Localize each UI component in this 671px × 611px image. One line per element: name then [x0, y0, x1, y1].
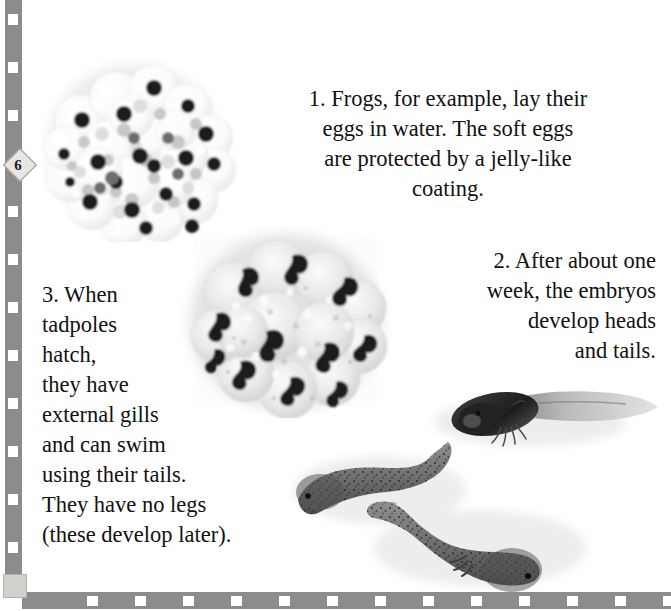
caption-step-3: 3. When tadpoles hatch, they have extern… — [42, 280, 302, 550]
rule-tick — [279, 596, 290, 606]
rule-tick — [231, 596, 242, 606]
rule-tick — [8, 494, 18, 505]
rule-tick — [8, 110, 18, 121]
dashed-rule-left — [5, 0, 22, 596]
rule-tick — [8, 398, 18, 409]
rule-tick — [471, 596, 482, 606]
rule-tick — [615, 596, 626, 606]
rule-tick — [8, 14, 18, 25]
tadpoles-photo — [280, 380, 671, 592]
rule-tick — [183, 596, 194, 606]
rule-tick — [8, 302, 18, 313]
rule-tick — [8, 62, 18, 73]
border-corner-joint — [3, 574, 27, 598]
rule-tick — [135, 596, 146, 606]
rule-tick — [519, 596, 530, 606]
frog-spawn-egg-mass-photo — [28, 42, 240, 242]
rule-tick — [8, 206, 18, 217]
rule-tick — [87, 596, 98, 606]
rule-tick — [327, 596, 338, 606]
rule-tick — [423, 596, 434, 606]
rule-tick — [8, 254, 18, 265]
rule-tick — [375, 596, 386, 606]
rule-tick — [8, 446, 18, 457]
rule-tick — [8, 350, 18, 361]
caption-step-1: 1. Frogs, for example, lay their eggs in… — [248, 84, 648, 204]
rule-tick — [663, 596, 671, 606]
rule-tick — [567, 596, 578, 606]
rule-tick — [8, 542, 18, 553]
caption-step-2: 2. After about one week, the embryos dev… — [400, 246, 656, 366]
